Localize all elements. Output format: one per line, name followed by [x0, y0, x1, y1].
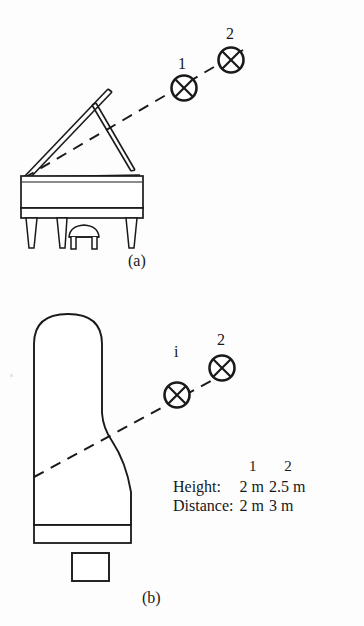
panel-a-caption: (a): [128, 253, 146, 269]
piano-leg-left: [26, 218, 37, 248]
microphone-1-label-panel-b: i: [174, 344, 178, 360]
piano-lid-prop-stick: [92, 103, 135, 171]
panel-b-drawing: [34, 314, 235, 581]
row-label-distance: Distance:: [173, 497, 239, 516]
panel-b-caption: (b): [142, 590, 161, 606]
table-row: Distance: 2 m 3 m: [173, 497, 305, 516]
microphone-1-icon-panel-b: [165, 383, 190, 408]
figure-root: 1 2 (a) i 2 (b) 1 2 Height: 2 m 2.5 m Di…: [0, 0, 364, 626]
microphone-1-icon-panel-a: [172, 76, 197, 101]
figure-drawing-layer: [0, 0, 364, 626]
height-mic-2-value: 2.5 m: [269, 478, 305, 497]
table-header-mic-2: 2: [269, 458, 305, 478]
microphone-1-label-panel-a: 1: [178, 56, 186, 72]
piano-body-lower-rail: [21, 208, 143, 218]
microphone-2-icon-panel-b: [210, 356, 235, 381]
piano-leg-right: [126, 218, 137, 248]
piano-plan-outline: [34, 314, 131, 525]
piano-body-case: [21, 176, 143, 208]
piano-bench-plan: [72, 553, 109, 581]
microphone-2-label-panel-a: 2: [226, 26, 234, 42]
height-mic-1-value: 2 m: [239, 478, 268, 497]
piano-plan-keyboard-strip: [34, 525, 131, 543]
scan-speck: [10, 374, 13, 377]
table-header-row: 1 2: [173, 458, 305, 478]
panel-a-axis-dashed-line: [24, 50, 243, 178]
piano-leg-middle: [57, 218, 67, 248]
row-label-height: Height:: [173, 478, 239, 497]
distance-mic-2-value: 3 m: [269, 497, 305, 516]
panel-a-drawing: [21, 48, 244, 250]
table-header-corner: [173, 458, 239, 478]
microphone-2-label-panel-b: 2: [217, 332, 225, 348]
table-header-mic-1: 1: [239, 458, 268, 478]
measurements-table: 1 2 Height: 2 m 2.5 m Distance: 2 m 3 m: [173, 458, 305, 516]
piano-bench-side: [69, 225, 99, 249]
table-row: Height: 2 m 2.5 m: [173, 478, 305, 497]
microphone-2-icon-panel-a: [219, 48, 244, 73]
distance-mic-1-value: 2 m: [239, 497, 268, 516]
